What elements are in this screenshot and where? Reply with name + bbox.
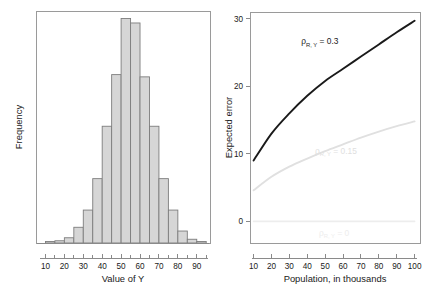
figure-svg: 102030405060708090Value of YFrequency010… (0, 0, 444, 294)
histogram-panel: 102030405060708090Value of YFrequency (13, 11, 210, 284)
expected-error-curve-label: ρR, Y = 0.3 (301, 36, 339, 47)
histogram-x-tick-label: 20 (60, 262, 70, 271)
histogram-bar (168, 210, 177, 243)
histogram-x-axis-title: Value of Y (102, 273, 145, 284)
expected-error-x-tick-label: 100 (408, 262, 422, 271)
histogram-bar (102, 126, 111, 243)
histogram-bar (131, 23, 140, 243)
expected-error-y-tick-label: 0 (238, 217, 243, 226)
expected-error-x-tick-label: 50 (321, 262, 331, 271)
expected-error-y-tick-label: 10 (234, 150, 244, 159)
expected-error-curve-label: ρR, Y = 0.15 (315, 146, 357, 157)
expected-error-y-tick-label: 30 (234, 15, 244, 24)
histogram-x-tick-label: 70 (154, 262, 164, 271)
histogram-bar (93, 179, 102, 243)
expected-error-x-tick-label: 90 (392, 262, 402, 271)
expected-error-curve-label: ρR, Y = 0 (319, 228, 350, 239)
histogram-bar (112, 75, 121, 243)
histogram-y-axis-title: Frequency (13, 105, 24, 150)
expected-error-x-axis-title: Population, in thousands (284, 273, 387, 284)
expected-error-x-tick-label: 20 (267, 262, 277, 271)
histogram-x-tick-label: 40 (98, 262, 108, 271)
expected-error-x-tick-label: 80 (374, 262, 384, 271)
histogram-x-tick-label: 50 (117, 262, 127, 271)
expected-error-panel: 0102030102030405060708090100Population, … (223, 12, 422, 284)
histogram-bars (45, 18, 206, 243)
expected-error-x-tick-label: 70 (356, 262, 366, 271)
expected-error-y-tick-label: 20 (234, 82, 244, 91)
histogram-x-tick-label: 90 (192, 262, 202, 271)
histogram-bar (83, 210, 92, 243)
histogram-bar (140, 77, 149, 243)
expected-error-curve (254, 121, 415, 190)
histogram-bar (121, 18, 130, 243)
expected-error-x-tick-label: 30 (285, 262, 295, 271)
expected-error-x-tick-label: 40 (303, 262, 313, 271)
histogram-bar (159, 179, 168, 243)
histogram-x-tick-label: 60 (135, 262, 145, 271)
histogram-x-tick-label: 80 (173, 262, 183, 271)
expected-error-y-axis-title: Expected error (223, 97, 234, 159)
histogram-bar (187, 239, 196, 243)
expected-error-x-tick-label: 60 (338, 262, 348, 271)
histogram-bar (74, 227, 83, 243)
histogram-bar (178, 231, 187, 243)
histogram-bar (64, 238, 73, 243)
histogram-bar (149, 126, 158, 243)
figure-container: 102030405060708090Value of YFrequency010… (0, 0, 444, 294)
histogram-x-tick-label: 10 (41, 262, 51, 271)
expected-error-x-tick-label: 10 (249, 262, 259, 271)
histogram-x-tick-label: 30 (79, 262, 89, 271)
